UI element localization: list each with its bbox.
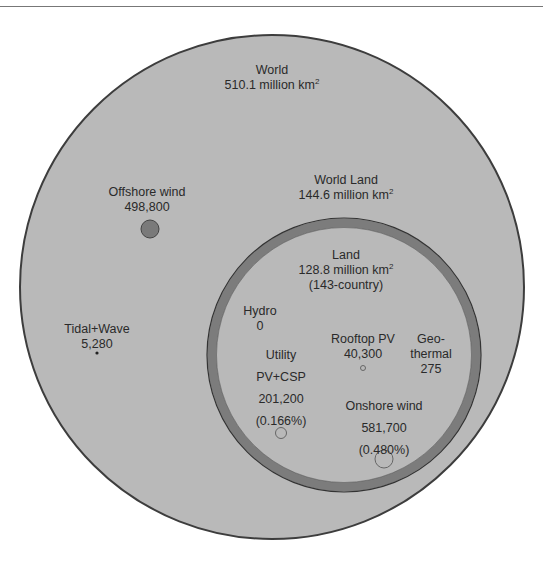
offshore-wind-label: Offshore wind 498,800 xyxy=(109,185,186,215)
hydro-label: Hydro 0 xyxy=(243,304,276,334)
tidal-wave-label: Tidal+Wave 5,280 xyxy=(64,322,129,352)
rooftop-pv-label: Rooftop PV 40,300 xyxy=(331,332,395,362)
world-land-label: World Land 144.6 million km2 xyxy=(299,173,394,203)
world-label: World 510.1 million km2 xyxy=(225,63,320,93)
land-label: Land 128.8 million km2 (143-country) xyxy=(299,248,394,293)
geothermal-label: Geo- thermal 275 xyxy=(410,332,452,377)
offshore-wind-dot xyxy=(141,220,159,238)
utility-pv-label: Utility PV+CSP 201,200 (0.166%) xyxy=(256,344,307,432)
onshore-wind-label: Onshore wind 581,700 (0.480%) xyxy=(345,395,422,461)
